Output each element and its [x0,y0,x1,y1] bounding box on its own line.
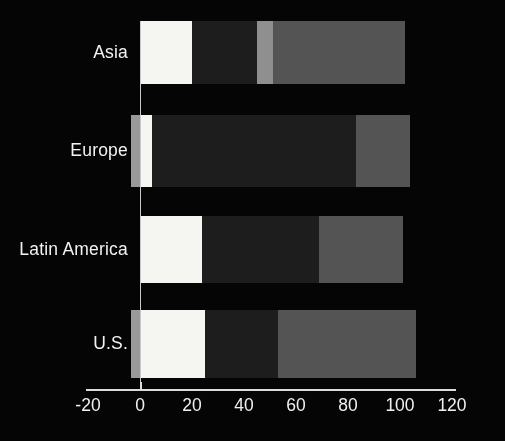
category-label-latin-america: Latin America [19,241,128,259]
bar-segment-seg-mid-gray [356,115,411,187]
bar-segment-seg-dark [202,216,319,283]
bar-row [0,310,505,378]
x-axis-tick-mark [140,382,142,390]
bar-segment-seg-dark [205,310,278,378]
x-axis-line [86,389,456,391]
bar-segment-seg-negative-gray [131,115,140,187]
category-label-asia: Asia [93,44,128,62]
bar-row [0,21,505,84]
bar-segment-seg-white [140,115,152,187]
bar-segment-seg-mid-gray [319,216,402,283]
plot-area: AsiaEuropeLatin AmericaU.S. -20020406080… [0,0,505,441]
x-axis-tick-label: 0 [110,397,170,415]
bar-segment-seg-white [140,21,192,84]
x-axis-tick-label: 100 [370,397,430,415]
bar-segment-seg-mid-gray [278,310,416,378]
bar-segment-seg-dark [152,115,356,187]
zero-reference-line [140,21,141,389]
x-axis-tick-label: 120 [422,397,482,415]
bar-segment-seg-white [140,216,202,283]
category-label-europe: Europe [70,142,128,160]
bar-segment-seg-dark [192,21,257,84]
x-axis-tick-label: 20 [162,397,222,415]
bar-segment-seg-negative-gray [131,310,140,378]
bar-segment-seg-light-gray [257,21,273,84]
x-axis-tick-label: 60 [266,397,326,415]
x-axis-tick-label: -20 [58,397,118,415]
category-label-u-s: U.S. [93,335,128,353]
bar-segment-seg-mid-gray [273,21,406,84]
x-axis-tick-label: 40 [214,397,274,415]
bar-segment-seg-white [140,310,205,378]
x-axis-tick-label: 80 [318,397,378,415]
stacked-bar-chart: AsiaEuropeLatin AmericaU.S. -20020406080… [0,0,505,441]
